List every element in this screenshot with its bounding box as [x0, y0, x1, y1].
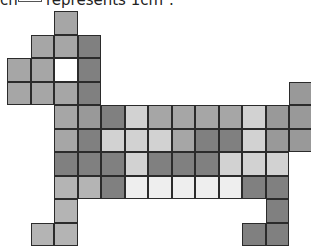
grid-cell-body	[172, 129, 196, 153]
grid-cell-tail	[289, 105, 311, 129]
grid-cell-body	[54, 105, 78, 129]
grid-cell-front-leg	[54, 199, 78, 223]
grid-cell-body	[242, 105, 266, 129]
grid-cell-body	[195, 152, 219, 176]
grid-cell-head	[31, 82, 55, 106]
grid-cell-body	[78, 152, 102, 176]
grid-cell-head	[78, 82, 102, 106]
grid-cell-body	[219, 129, 243, 153]
grid-cell-head	[78, 58, 102, 82]
grid-cell-back-leg	[266, 199, 290, 223]
grid-cell-body	[172, 152, 196, 176]
grid-cell-body	[148, 129, 172, 153]
grid-cell-tail	[289, 82, 311, 106]
grid-cell-body	[78, 105, 102, 129]
grid-cell-body	[172, 105, 196, 129]
grid-cell-body	[219, 176, 243, 200]
grid-cell-front-leg	[31, 223, 55, 247]
grid-cell-front-leg	[54, 223, 78, 247]
grid-cell-body	[219, 152, 243, 176]
dog-grid-figure	[0, 0, 311, 251]
grid-cell-body	[242, 129, 266, 153]
grid-cell-body	[54, 129, 78, 153]
grid-cell-body	[78, 129, 102, 153]
grid-cell-head	[31, 58, 55, 82]
grid-cell-body	[172, 176, 196, 200]
grid-cell-body	[242, 152, 266, 176]
grid-cell-body	[266, 105, 290, 129]
grid-cell-body	[148, 152, 172, 176]
grid-cell-body	[195, 105, 219, 129]
grid-cell-eye	[54, 58, 78, 82]
grid-cell-back-leg	[242, 223, 266, 247]
grid-cell-head	[7, 82, 31, 106]
grid-cell-body	[125, 176, 149, 200]
grid-cell-body	[101, 176, 125, 200]
grid-cell-body	[148, 176, 172, 200]
grid-cell-body	[266, 176, 290, 200]
grid-cell-body	[242, 176, 266, 200]
grid-cell-body	[219, 105, 243, 129]
grid-cell-body	[54, 176, 78, 200]
grid-cell-body	[266, 129, 290, 153]
grid-cell-body	[125, 129, 149, 153]
grid-cell-body	[101, 152, 125, 176]
grid-cell-head	[31, 35, 55, 59]
grid-cell-head	[54, 35, 78, 59]
grid-cell-body	[101, 105, 125, 129]
grid-cell-back-leg	[266, 223, 290, 247]
grid-cell-head	[54, 11, 78, 35]
grid-cell-head	[54, 82, 78, 106]
grid-cell-body	[101, 129, 125, 153]
grid-cell-body	[195, 129, 219, 153]
grid-cell-body	[266, 152, 290, 176]
grid-cell-tail	[289, 129, 311, 153]
grid-cell-head	[78, 35, 102, 59]
grid-cell-body	[54, 152, 78, 176]
grid-cell-body	[125, 105, 149, 129]
grid-cell-body	[195, 176, 219, 200]
grid-cell-head	[7, 58, 31, 82]
grid-cell-body	[125, 152, 149, 176]
grid-cell-body	[78, 176, 102, 200]
grid-cell-body	[148, 105, 172, 129]
